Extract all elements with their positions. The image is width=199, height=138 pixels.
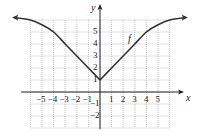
x-axis-label: x [186, 92, 190, 103]
x-tick-label: −5 [36, 95, 46, 104]
x-tick-label: 3 [132, 95, 137, 104]
x-tick-label: −3 [59, 95, 69, 104]
y-tick-label: 1 [93, 75, 98, 84]
y-tick-label: −1 [90, 99, 100, 108]
y-tick-label: 3 [93, 51, 98, 60]
y-tick-label: 4 [93, 39, 98, 48]
curve-label-f: f [128, 33, 131, 44]
y-tick-label: 2 [93, 63, 98, 72]
x-tick-label: 5 [156, 95, 161, 104]
y-tick-label: 5 [93, 27, 98, 36]
x-tick-label: 1 [109, 95, 114, 104]
x-tick-label: −4 [48, 95, 58, 104]
x-tick-label: 2 [121, 95, 126, 104]
x-tick-label: 4 [144, 95, 149, 104]
y-tick-label: −2 [90, 111, 100, 120]
y-axis-label: y [91, 2, 95, 13]
x-tick-label: −2 [71, 95, 81, 104]
